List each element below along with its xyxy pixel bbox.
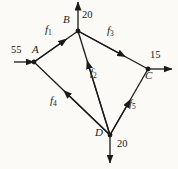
node-dot-d [108, 133, 113, 138]
edge-label-f1: f1 [45, 24, 52, 36]
node-dot-a [32, 60, 37, 65]
flow-network-figure: A B C D f1 f2 f3 f4 f5 55 20 15 20 [0, 0, 178, 169]
node-dot-b [76, 29, 81, 34]
edge-label-f2-sub: 2 [93, 71, 97, 80]
edge-f1 [34, 31, 78, 62]
edge-label-f4-sub: 4 [53, 99, 57, 108]
inflow-value-a: 55 [11, 45, 22, 56]
edge-label-f5: f5 [129, 98, 136, 110]
edge-label-f3: f3 [107, 25, 114, 37]
outflow-value-c: 15 [150, 50, 161, 61]
node-label-b: B [63, 14, 70, 25]
network-graph-canvas [0, 0, 178, 169]
outflow-value-d: 20 [117, 139, 128, 150]
edge-label-f1-sub: 1 [48, 28, 52, 37]
edge-label-f5-sub: 5 [132, 102, 136, 111]
edge-label-f2: f2 [90, 67, 97, 79]
edge-f5-arrowhead [110, 103, 129, 135]
node-label-d: D [95, 127, 103, 138]
node-label-c: C [145, 70, 152, 81]
outflow-value-b: 20 [82, 10, 93, 21]
node-label-a: A [32, 44, 39, 55]
edge-label-f4: f4 [50, 95, 57, 107]
edge-label-f3-sub: 3 [110, 29, 114, 38]
